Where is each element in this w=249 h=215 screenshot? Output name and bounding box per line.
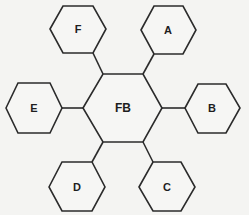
connector-fb-c [143, 142, 153, 162]
hexagon-nodes: FBABCDEF [6, 6, 240, 211]
hexagon-node-f: F [50, 6, 106, 53]
hexagon-node-fb: FB [83, 74, 162, 142]
hub-diagram: FBABCDEF [0, 0, 249, 215]
connector-fb-a [143, 54, 154, 74]
hexagon-node-d: D [49, 162, 105, 211]
node-label: C [163, 181, 171, 193]
hexagon-node-a: A [141, 6, 196, 54]
connector-fb-d [92, 142, 103, 162]
hexagon-node-b: B [185, 84, 240, 133]
node-label: A [164, 24, 172, 36]
node-label: B [208, 102, 216, 114]
connector-fb-f [93, 53, 103, 74]
node-label: E [30, 102, 37, 114]
node-label: F [75, 23, 82, 35]
node-label: FB [115, 101, 131, 115]
hexagon-node-c: C [139, 162, 195, 211]
node-label: D [73, 181, 81, 193]
hexagon-node-e: E [6, 83, 62, 133]
